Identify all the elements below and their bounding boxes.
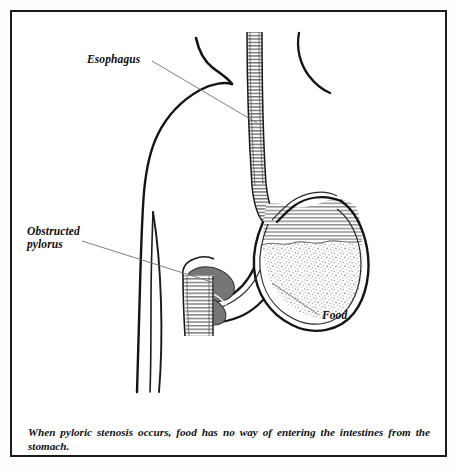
figure-caption: When pyloric stenosis occurs, food has n… — [28, 425, 430, 453]
arm-outline — [150, 212, 161, 392]
leader-line-pylorus — [82, 241, 215, 283]
label-obstructed-pylorus: Obstructed pylorus — [27, 225, 80, 251]
leader-line-esophagus — [152, 61, 257, 123]
label-esophagus: Esophagus — [87, 53, 140, 66]
label-food: Food — [322, 309, 347, 322]
esophagus — [240, 28, 288, 228]
figure-root: Esophagus Obstructed pylorus Food When p… — [0, 0, 456, 469]
